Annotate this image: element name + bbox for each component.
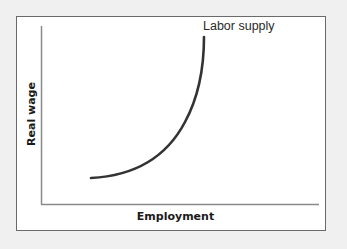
labor-supply-label: Labor supply	[203, 19, 275, 33]
diagram-canvas: Labor supply Employment Real wage	[0, 0, 347, 249]
labor-supply-curve	[91, 37, 204, 178]
y-axis-label: Real wage	[25, 82, 38, 146]
x-axis-label: Employment	[0, 210, 347, 223]
